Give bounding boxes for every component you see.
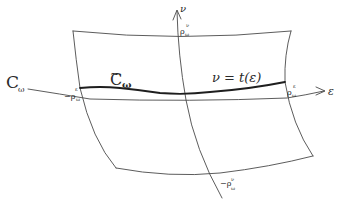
svg-text:ω: ω bbox=[185, 31, 189, 37]
svg-text:ε: ε bbox=[75, 86, 78, 92]
patch-bottom-edge bbox=[116, 156, 313, 175]
label-nu: ν bbox=[180, 3, 186, 14]
svg-text:ω: ω bbox=[231, 185, 235, 191]
svg-text:ω: ω bbox=[76, 96, 80, 102]
svg-text:ω: ω bbox=[292, 92, 296, 98]
svg-text:ν: ν bbox=[231, 176, 234, 182]
label-epsilon: ε bbox=[328, 85, 334, 98]
label-neg-rho-nu: −ρ ν ω bbox=[220, 176, 235, 191]
svg-text:−ρ: −ρ bbox=[64, 92, 76, 101]
svg-text:ω: ω bbox=[18, 85, 25, 94]
svg-text:ε: ε bbox=[293, 83, 296, 89]
label-rho-nu: ρ ν ω bbox=[180, 22, 189, 37]
label-rho-eps: ρ ε ω bbox=[287, 83, 296, 98]
svg-text:ω: ω bbox=[122, 79, 132, 90]
surface-patch bbox=[73, 31, 313, 175]
label-neg-rho-eps: −ρ ε ω bbox=[64, 86, 80, 102]
svg-text:ν: ν bbox=[186, 22, 189, 28]
svg-text:−ρ: −ρ bbox=[220, 179, 232, 188]
label-c-tilde-omega: ~ C ω bbox=[110, 68, 132, 90]
nu-axis bbox=[173, 10, 222, 198]
label-graph-equation: ν = t(ε) bbox=[212, 70, 261, 85]
diagram-canvas: C ω ~ C ω ν = t(ε) ε ν −ρ ε ω ρ ε ω ρ ν … bbox=[0, 0, 337, 202]
label-c-omega: C ω bbox=[6, 72, 25, 94]
svg-text:C: C bbox=[110, 70, 122, 89]
nu-curve bbox=[177, 11, 222, 198]
